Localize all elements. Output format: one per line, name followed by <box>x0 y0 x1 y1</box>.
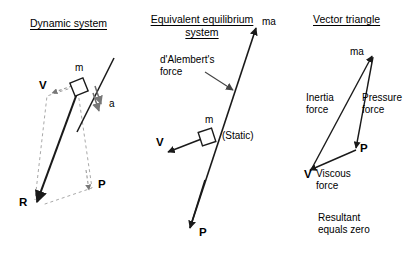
label-viscous-force-line2: force <box>316 180 338 191</box>
dashed-construction-right <box>42 92 92 205</box>
label-static-equivalent: (Static) <box>222 130 254 141</box>
label-ma-equivalent: ma <box>262 16 276 27</box>
note-resultant-line1: Resultant <box>318 212 360 223</box>
vector-velocity-dynamic <box>52 86 72 93</box>
vector-resultant-dynamic <box>37 88 79 202</box>
label-dalembert-line1: d'Alembert's <box>160 54 214 65</box>
label-inertia-force-line1: Inertia <box>306 92 334 103</box>
mass-block-dynamic <box>70 78 88 96</box>
label-viscous-force-line1: Viscous <box>316 168 351 179</box>
panel-title-vector-triangle: Vector triangle <box>313 14 380 26</box>
label-pressure-dynamic: P <box>98 178 106 191</box>
label-viscous-vector-triangle: V <box>304 168 312 181</box>
label-ma-triangle: ma <box>350 46 364 57</box>
vector-velocity-equivalent <box>168 138 204 152</box>
label-resultant-dynamic: R <box>19 196 27 209</box>
label-mass-equivalent: m <box>205 114 213 125</box>
figure-canvas: Dynamic system m V a P R Equivalent equi… <box>0 0 418 254</box>
dashed-construction-left <box>35 87 74 200</box>
mass-block-equivalent <box>198 128 216 146</box>
panel-title-dynamic-system: Dynamic system <box>30 18 107 30</box>
label-mass-dynamic: m <box>75 62 83 73</box>
dalembert-callout-arrow <box>205 72 233 90</box>
panel-title-equivalent-line2: system <box>140 27 264 39</box>
label-pressure-force-line1: Pressure <box>362 92 402 103</box>
label-velocity-dynamic: V <box>39 79 47 92</box>
label-inertia-force-line2: force <box>306 104 328 115</box>
label-velocity-equivalent: V <box>156 136 164 149</box>
label-pressure-vector-triangle: P <box>360 142 368 155</box>
note-resultant-line2: equals zero <box>318 224 370 235</box>
label-pressure-equivalent: P <box>199 226 207 239</box>
label-dalembert-line2: force <box>160 66 182 77</box>
label-pressure-force-line2: force <box>362 104 384 115</box>
label-acceleration-dynamic: a <box>109 98 115 109</box>
vector-pressure-dynamic <box>86 170 89 190</box>
vector-pressure-equivalent <box>190 180 205 228</box>
panel-title-equivalent-line1: Equivalent equilibrium <box>140 14 264 26</box>
